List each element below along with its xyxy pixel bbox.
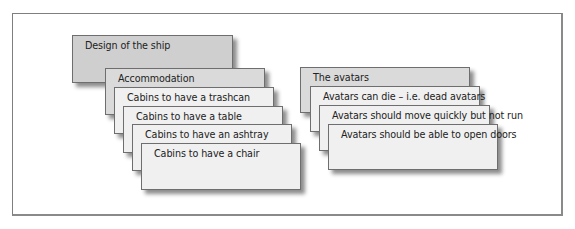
- card-chair: Cabins to have a chair: [141, 143, 301, 190]
- card-avatars-doors: Avatars should be able to open doors: [328, 124, 498, 170]
